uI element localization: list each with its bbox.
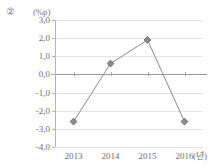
- x-axis-tick-label: 2016: [176, 151, 194, 161]
- plot-area: 3,02,01,00,0-1,0-2,0-3,0-4,0 20132014201…: [55, 20, 203, 147]
- y-axis-tick-label: -3,0: [36, 124, 50, 133]
- y-axis-tick-label: 2,0: [39, 34, 50, 43]
- data-point-marker: [144, 37, 151, 44]
- y-axis-tick-label: 0,0: [39, 70, 50, 79]
- y-axis-tick-label: 1,0: [39, 52, 50, 61]
- gridline: [56, 147, 203, 148]
- x-axis-tick-label: 2014: [102, 151, 120, 161]
- series-line: [74, 40, 185, 122]
- data-series-layer: [55, 20, 203, 147]
- figure-item-marker: ②: [6, 6, 15, 18]
- data-point-marker: [70, 118, 77, 125]
- data-point-marker: [107, 60, 114, 67]
- y-axis-tick-label: -4,0: [36, 143, 50, 152]
- y-axis-tick-label: -1,0: [36, 88, 50, 97]
- x-axis-tick-label: 2013: [65, 151, 83, 161]
- series-markers-group: [70, 37, 188, 125]
- data-point-marker: [181, 118, 188, 125]
- y-tick-mark: [52, 147, 55, 148]
- x-axis-unit-label: (년): [193, 151, 207, 161]
- chart-figure: ② (%p) 3,02,01,00,0-1,0-2,0-3,0-4,0 2013…: [0, 0, 217, 166]
- y-axis-tick-label: -2,0: [36, 106, 50, 115]
- x-axis-tick-label: 2015: [139, 151, 157, 161]
- y-axis-tick-label: 3,0: [39, 16, 50, 25]
